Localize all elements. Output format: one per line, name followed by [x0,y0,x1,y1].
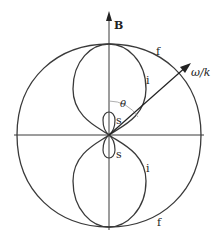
field-label: B [114,19,123,32]
s-label-bottom: s [116,148,122,161]
i-label-top: i [146,74,150,87]
theta-label: θ [120,98,126,109]
field-arrowhead-icon [106,11,112,21]
mhd-polar-diagram: B ω/k θ f f i i s s [0,0,216,243]
s-label-top: s [116,114,122,127]
diagram-canvas: B ω/k θ f f i i s s [0,0,216,243]
f-label-bottom: f [157,216,162,229]
i-label-bottom: i [146,162,150,175]
vector-label: ω/k [191,66,211,79]
f-label-top: f [156,45,161,58]
